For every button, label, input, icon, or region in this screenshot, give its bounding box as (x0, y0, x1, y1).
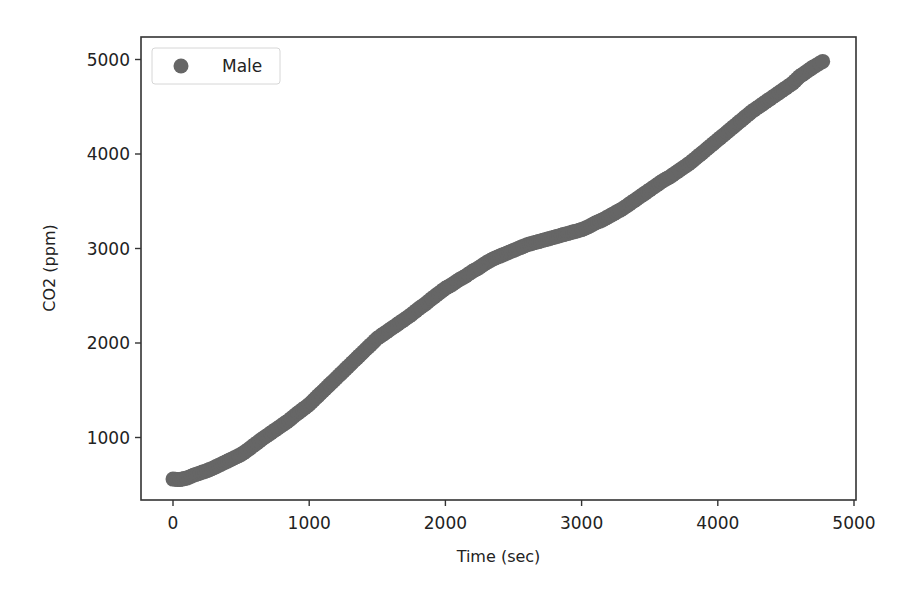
y-tick-label: 1000 (87, 428, 130, 448)
y-tick-label: 5000 (87, 50, 130, 70)
x-tick-label: 1000 (288, 513, 331, 533)
x-axis-ticks: 010002000300040005000 (168, 500, 876, 533)
y-tick-label: 2000 (87, 333, 130, 353)
x-axis-label: Time (sec) (456, 547, 541, 566)
legend-label-male: Male (222, 56, 262, 76)
chart-container: 010002000300040005000 100020003000400050… (0, 0, 907, 594)
y-tick-label: 3000 (87, 239, 130, 259)
data-points (166, 54, 831, 487)
data-point (815, 54, 830, 69)
scatter-chart: 010002000300040005000 100020003000400050… (0, 0, 907, 594)
x-tick-label: 3000 (560, 513, 603, 533)
x-tick-label: 5000 (832, 513, 875, 533)
y-tick-label: 4000 (87, 144, 130, 164)
x-tick-label: 4000 (696, 513, 739, 533)
legend: Male (152, 48, 280, 84)
legend-marker-icon (174, 59, 189, 74)
x-tick-label: 2000 (424, 513, 467, 533)
y-axis-ticks: 10002000300040005000 (87, 50, 141, 448)
y-axis-label: CO2 (ppm) (40, 224, 59, 311)
x-tick-label: 0 (168, 513, 179, 533)
